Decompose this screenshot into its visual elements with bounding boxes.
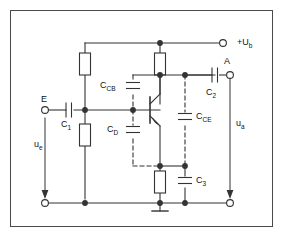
emitter-arrow <box>152 118 159 125</box>
junction-emitter-bypass <box>182 163 188 169</box>
capacitor-cce-label: CCE <box>196 112 212 123</box>
junction-base-node <box>130 107 136 113</box>
junction-ground-right <box>182 200 188 206</box>
output-voltage-arrow <box>227 79 234 199</box>
input-terminal-label: E <box>41 95 47 104</box>
input-voltage-arrow <box>42 118 49 199</box>
capacitor-c2-label: C2 <box>206 88 216 99</box>
base-bias-resistor-upper <box>80 53 91 75</box>
emitter-resistor <box>155 171 166 193</box>
output-terminal-label: A <box>224 57 230 66</box>
output-return-terminal-circle[interactable] <box>227 200 234 207</box>
collector-resistor <box>155 53 166 75</box>
capacitor-cce-plates <box>179 114 192 120</box>
capacitor-cd-branch <box>133 110 160 166</box>
input-return-terminal-circle[interactable] <box>42 200 49 207</box>
junction-output-node <box>182 72 188 78</box>
junction-collector-node <box>157 72 163 78</box>
supply-terminal-circle[interactable] <box>220 40 227 47</box>
capacitor-cd-plates <box>127 127 140 133</box>
junction-supply-collector <box>157 40 163 46</box>
capacitor-c3-plates <box>179 178 192 184</box>
input-terminal-circle[interactable] <box>42 107 49 114</box>
junction-ground-center <box>157 200 163 206</box>
output-voltage-label: ua <box>236 119 245 130</box>
junction-ground-left <box>82 200 88 206</box>
capacitor-cd-label: CD <box>107 125 118 136</box>
capacitor-c3-label: C3 <box>196 176 206 187</box>
base-bias-resistor-lower <box>80 124 91 146</box>
input-voltage-label: ue <box>34 140 43 151</box>
output-terminal-circle[interactable] <box>227 72 234 79</box>
capacitor-c1-label: C1 <box>61 120 71 131</box>
junction-base-divider <box>82 107 88 113</box>
capacitor-ccb-plates <box>127 83 140 89</box>
supply-label: +Ub <box>237 38 252 49</box>
capacitor-c1 <box>66 103 72 117</box>
junction-emitter-node <box>157 163 163 169</box>
capacitor-ccb-label: CCB <box>100 81 116 92</box>
junction-dots <box>82 40 188 206</box>
